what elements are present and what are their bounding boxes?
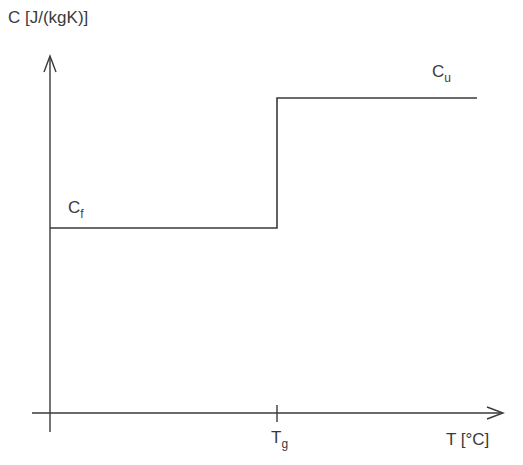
- tg-label-main: T: [271, 428, 281, 447]
- cf-label-sub: f: [80, 207, 83, 221]
- y-axis-label: C [J/(kgK)]: [8, 8, 88, 28]
- tg-label-sub: g: [281, 437, 288, 451]
- cf-label-main: C: [68, 198, 80, 217]
- cu-label: Cu: [432, 62, 451, 82]
- cu-label-sub: u: [444, 71, 451, 85]
- tg-label: Tg: [271, 428, 288, 448]
- step-curve: [50, 98, 477, 228]
- cu-label-main: C: [432, 62, 444, 81]
- cf-label: Cf: [68, 198, 84, 218]
- x-axis-label: T [°C]: [446, 430, 489, 450]
